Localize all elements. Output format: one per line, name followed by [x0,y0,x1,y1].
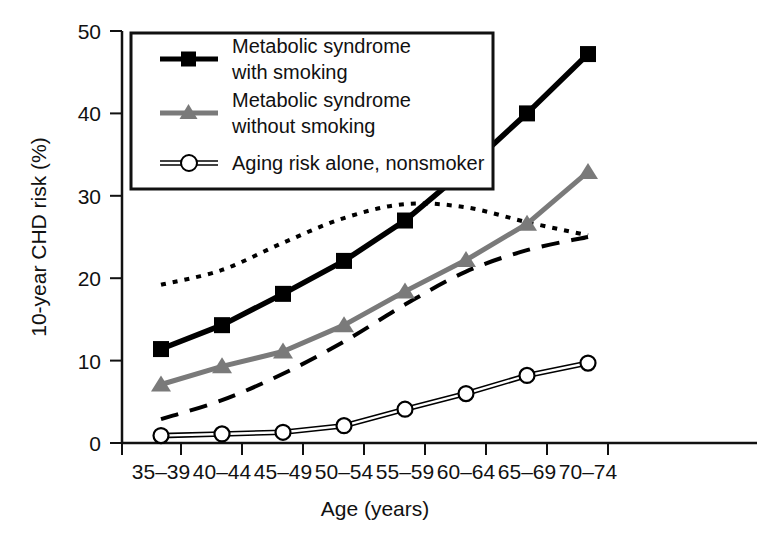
x-tick-label-7: 70–74 [559,460,618,483]
chart-svg: 0 10 20 30 40 50 10-year CHD risk (%) 35… [0,0,781,545]
dotted-curve [161,203,588,284]
open-circle-marker-icon [520,368,535,383]
y-axis-title: 10-year CHD risk (%) [27,137,50,337]
legend-label-1-line1: Metabolic syndrome [232,35,411,57]
chart-figure: 0 10 20 30 40 50 10-year CHD risk (%) 35… [0,0,781,545]
y-tick-label-10: 10 [78,350,101,373]
x-tick-label-2: 45–49 [254,460,312,483]
y-tick-label-40: 40 [78,102,101,125]
series-1 [151,163,598,392]
legend-label-1-line2: with smoking [231,61,348,83]
square-marker-icon [580,46,596,62]
x-tick-labels: 35–39 40–44 45–49 50–54 55–59 60–64 65–6… [132,460,618,483]
square-marker-icon [397,213,413,229]
legend-label-2-line1: Metabolic syndrome [232,89,411,111]
square-marker-icon [275,286,291,302]
open-circle-marker-icon [337,418,352,433]
series-3 [161,203,588,284]
y-axis-ticks [110,31,122,443]
solid-line [161,172,588,385]
legend-label-3-line1: Aging risk alone, nonsmoker [232,152,485,174]
open-circle-marker-icon [459,386,474,401]
x-axis-title: Age (years) [321,497,430,520]
x-tick-label-0: 35–39 [132,460,190,483]
triangle-marker-icon [578,163,598,179]
x-axis-ticks [122,443,608,455]
legend: Metabolic syndrome with smoking Metaboli… [131,33,493,189]
square-marker-icon [153,341,169,357]
open-circle-marker-icon [215,426,230,441]
open-circle-marker-icon [581,356,596,371]
square-marker-icon [181,52,196,67]
x-tick-label-5: 60–64 [437,460,496,483]
y-tick-label-20: 20 [78,267,101,290]
y-tick-label-0: 0 [89,432,101,455]
y-tick-label-50: 50 [78,20,101,43]
open-circle-marker-icon [154,428,169,443]
square-marker-icon [519,105,535,121]
x-tick-label-4: 55–59 [376,460,434,483]
x-tick-label-6: 65–69 [498,460,556,483]
open-circle-marker-icon [276,425,291,440]
legend-label-2-line2: without smoking [231,115,375,137]
x-tick-label-1: 40–44 [193,460,252,483]
y-tick-label-30: 30 [78,185,101,208]
square-marker-icon [214,317,230,333]
square-marker-icon [336,253,352,269]
open-circle-marker-icon [398,402,413,417]
open-circle-marker-icon [181,155,197,171]
y-tick-labels: 0 10 20 30 40 50 [78,20,101,455]
x-tick-label-3: 50–54 [315,460,374,483]
